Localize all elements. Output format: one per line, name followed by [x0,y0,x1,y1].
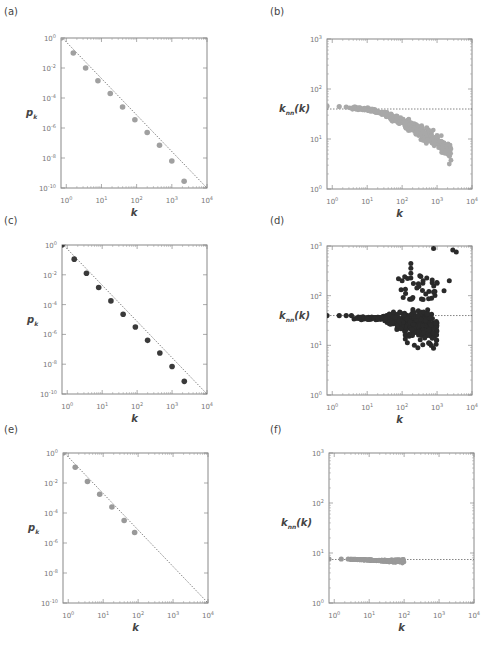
x-axis-label: k [396,208,404,219]
tick-label: 100 [61,401,73,411]
tick-label: 102 [132,610,144,620]
tick-label: 101 [310,340,322,350]
data-point [431,246,436,251]
x-axis-label: k [131,413,139,424]
data-point [132,530,138,536]
tick-label: 100 [310,184,322,194]
data-point [108,298,114,304]
tick-label: 102 [131,195,143,205]
data-point [433,321,438,326]
tick-label: 100 [312,598,324,608]
tick-label: 104 [201,401,213,411]
plot-area [60,450,208,603]
data-point [387,312,392,317]
data-point [430,278,435,283]
data-point [399,287,404,292]
tick-label: 101 [310,134,322,144]
plot-area [59,242,207,394]
data-point [431,140,436,145]
tick-label: 100 [44,33,56,43]
data-point [107,91,113,97]
tick-label: 101 [95,195,107,205]
data-point [357,557,362,562]
data-point [339,556,344,561]
data-point [395,323,400,328]
plot-area [58,35,207,188]
data-point [420,323,425,328]
data-point [425,312,430,317]
data-point [169,364,175,370]
data-point [405,340,410,345]
data-point [324,313,329,318]
tick-label: 104 [202,610,214,620]
data-point [409,327,414,332]
data-point [434,342,439,347]
data-point [402,274,407,279]
data-point [337,104,342,109]
y-axis-label: pk [26,314,39,327]
tick-label: 104 [466,196,478,206]
data-point [72,464,78,470]
data-point [392,558,397,563]
tick-label: 103 [431,402,443,412]
data-point [403,126,408,131]
tick-label: 104 [466,402,478,412]
data-point [454,249,459,254]
plot-area [324,103,472,166]
data-point [372,109,377,114]
data-point [120,311,126,317]
figure-canvas: (a)10010110210310410010-210-410-610-810-… [0,0,493,648]
data-point [384,112,389,117]
tick-label: 102 [310,84,322,94]
data-point [357,316,362,321]
y-axis-label: pk [27,522,40,535]
tick-label: 104 [201,195,213,205]
tick-label: 100 [326,196,338,206]
x-axis-label: k [398,622,406,633]
panel-b: (b)100101102103104100101102103kknn(k) [270,6,478,219]
data-point [376,558,381,563]
tick-label: 10-6 [42,123,56,133]
tick-label: 10-8 [42,153,56,163]
panel-e: (e)10010110210310410010-210-410-610-810-… [4,424,214,633]
panel-a: (a)10010110210310410010-210-410-610-810-… [4,6,213,218]
data-point [447,278,452,283]
tick-label: 10-2 [44,478,58,488]
data-point [447,162,452,167]
data-point [360,107,365,112]
plot-frame [61,38,207,188]
data-point [337,313,342,318]
tick-label: 10-10 [40,389,57,399]
data-point [145,338,151,344]
tick-label: 102 [310,291,322,301]
tick-label: 10-8 [44,568,58,578]
data-point [181,178,187,184]
data-point [365,317,370,322]
data-point [410,127,415,132]
data-point [421,330,426,335]
plot-area [324,246,472,351]
tick-label: 10-4 [43,300,57,310]
data-point [415,345,420,350]
tick-label: 10-10 [41,598,58,608]
data-point [442,288,447,293]
data-point [417,273,422,278]
tick-label: 104 [468,610,480,620]
tick-label: 101 [361,402,373,412]
data-point [71,50,77,56]
tick-label: 100 [310,390,322,400]
data-point [402,119,407,124]
data-point [95,78,101,84]
data-point [408,271,413,276]
panel-label: (d) [270,215,284,226]
panel-label: (e) [4,424,18,435]
data-point [121,518,127,524]
data-point [414,286,419,291]
data-point [408,261,413,266]
tick-label: 10-10 [39,183,56,193]
tick-label: 10-6 [44,538,58,548]
data-point [400,278,405,283]
data-point [169,158,175,164]
data-point [157,142,163,148]
data-point [440,146,445,151]
